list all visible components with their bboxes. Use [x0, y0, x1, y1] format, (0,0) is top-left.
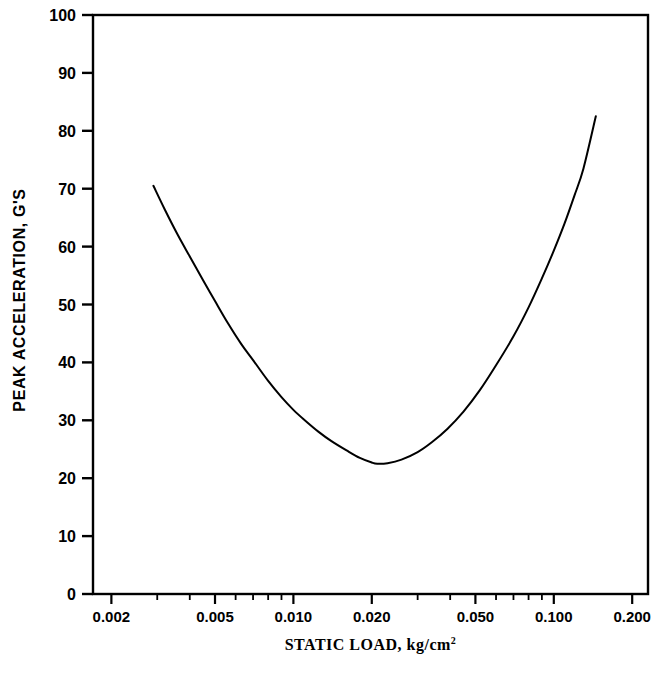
x-tick-label: 0.005: [196, 608, 234, 625]
y-tick-label: 80: [58, 123, 76, 140]
axes-frame: [93, 15, 648, 594]
chart-figure: 0.0020.0050.0100.0200.0500.1000.200 0102…: [0, 0, 658, 675]
y-tick-label: 70: [58, 181, 76, 198]
x-tick-label: 0.002: [93, 608, 131, 625]
y-tick-label: 0: [67, 586, 76, 603]
y-tick-label: 20: [58, 470, 76, 487]
x-tick-label: 0.050: [457, 608, 495, 625]
x-axis-tick-labels: 0.0020.0050.0100.0200.0500.1000.200: [93, 608, 651, 625]
x-tick-label: 0.020: [353, 608, 391, 625]
series-path: [153, 116, 595, 463]
plot-svg: 0.0020.0050.0100.0200.0500.1000.200 0102…: [0, 0, 658, 675]
x-axis-ticks: [111, 594, 632, 604]
y-axis-ticks: [82, 15, 93, 594]
x-tick-label: 0.010: [275, 608, 313, 625]
y-tick-label: 100: [49, 7, 76, 24]
y-tick-label: 60: [58, 239, 76, 256]
y-tick-label: 40: [58, 354, 76, 371]
y-tick-label: 50: [58, 297, 76, 314]
y-tick-label: 90: [58, 65, 76, 82]
y-axis-tick-labels: 0102030405060708090100: [49, 7, 76, 603]
x-tick-label: 0.100: [535, 608, 573, 625]
y-tick-label: 10: [58, 528, 76, 545]
x-tick-label: 0.200: [613, 608, 651, 625]
data-series-line: [153, 116, 595, 463]
y-tick-label: 30: [58, 412, 76, 429]
